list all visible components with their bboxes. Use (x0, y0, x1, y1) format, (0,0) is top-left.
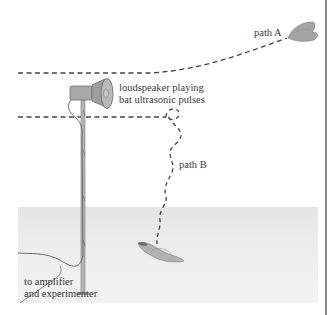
path-b-label: path B (179, 159, 207, 171)
moth-a-icon (288, 22, 318, 41)
loudspeaker-icon (70, 79, 113, 109)
speaker-label-line2: bat ultrasonic pulses (119, 94, 205, 106)
diagram-graphics (0, 0, 331, 315)
path-a-label: path A (254, 27, 282, 39)
amplifier-label-line1: to amplifier (24, 276, 73, 288)
amplifier-label-line2: and experimenter (24, 288, 97, 300)
path-b-line (157, 109, 181, 244)
speaker-label-line1: loudspeaker playing (119, 82, 204, 94)
speaker-cable (18, 96, 83, 266)
diagram-canvas: path A loudspeaker playing bat ultrasoni… (0, 0, 331, 315)
path-a-line (18, 38, 287, 73)
moth-b-icon (138, 242, 184, 262)
